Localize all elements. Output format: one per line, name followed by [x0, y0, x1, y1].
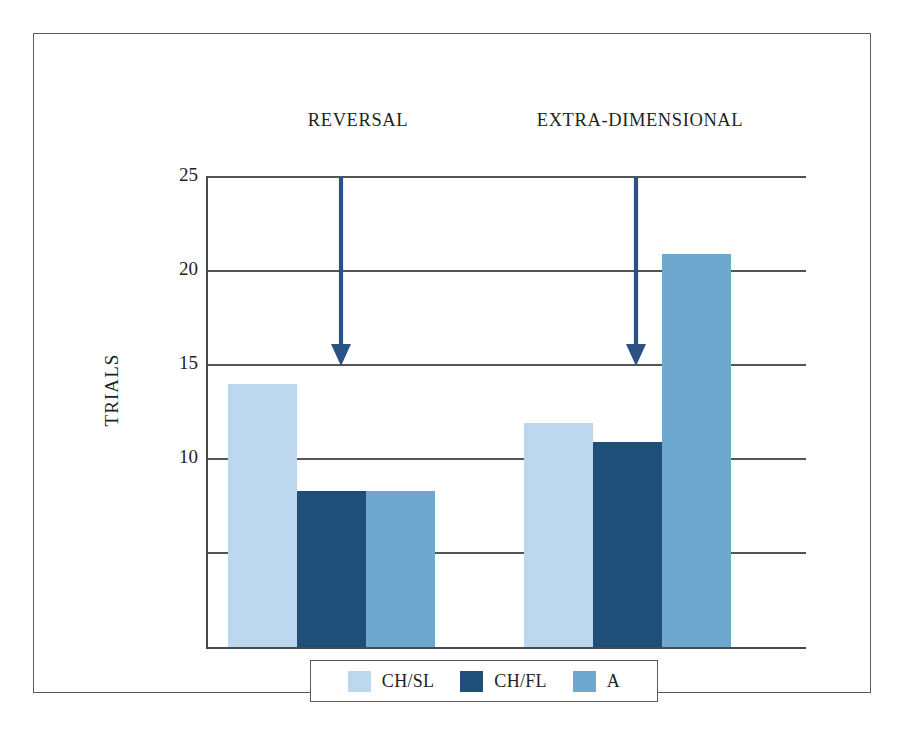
group-label-extra-dimensional: EXTRA-DIMENSIONAL: [472, 110, 808, 131]
reversal-arrow-icon: [328, 177, 354, 367]
legend-label-ch-fl: CH/FL: [494, 671, 547, 692]
legend-item-a[interactable]: A: [573, 671, 620, 692]
legend-label-a: A: [607, 671, 620, 692]
gridline-25: [206, 176, 806, 177]
y-tick-label-10: 10: [158, 446, 198, 468]
bar-reversal-a: [366, 491, 435, 647]
figure-root: REVERSAL EXTRA-DIMENSIONAL TRIALS 252015…: [0, 0, 897, 729]
x-axis-spine: [206, 647, 806, 649]
bar-reversal-ch-fl: [297, 491, 366, 647]
y-axis-title: TRIALS: [101, 310, 123, 470]
legend-swatch-ch-fl: [460, 671, 483, 692]
y-tick-label-20: 20: [158, 258, 198, 280]
y-tick-label-15: 15: [158, 352, 198, 374]
bar-extra-dimensional-ch-fl: [593, 442, 662, 647]
bar-extra-dimensional-a: [662, 254, 731, 647]
legend-item-ch-fl[interactable]: CH/FL: [460, 671, 547, 692]
y-tick-label-25: 25: [158, 164, 198, 186]
figure-frame: REVERSAL EXTRA-DIMENSIONAL TRIALS 252015…: [33, 33, 871, 693]
bar-reversal-ch-sl: [228, 384, 297, 647]
legend-label-ch-sl: CH/SL: [382, 671, 435, 692]
legend-swatch-a: [573, 671, 596, 692]
bar-extra-dimensional-ch-sl: [524, 423, 593, 647]
y-axis-spine: [206, 177, 208, 647]
y-axis-tick-labels: 25201510: [156, 177, 198, 647]
legend: CH/SLCH/FLA: [310, 660, 658, 702]
group-label-reversal: REVERSAL: [220, 110, 496, 131]
legend-item-ch-sl[interactable]: CH/SL: [348, 671, 435, 692]
legend-swatch-ch-sl: [348, 671, 371, 692]
extra-dimensional-arrow-icon: [623, 177, 649, 367]
plot-area: [206, 177, 806, 647]
